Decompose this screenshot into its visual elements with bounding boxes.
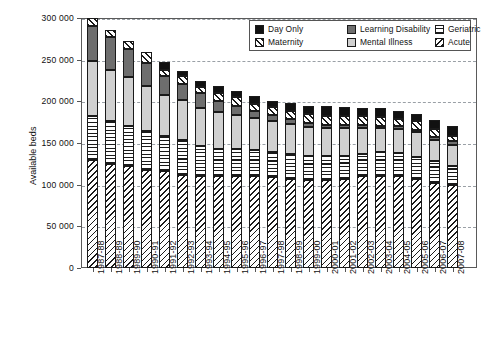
bar-segment-day-only <box>231 91 242 98</box>
bar-segment-geriatric <box>141 131 152 169</box>
bar-segment-geriatric <box>213 149 224 177</box>
bar-segment-maternity <box>285 111 296 119</box>
x-tick-label: 2001-02 <box>348 240 358 274</box>
solid-gray-swatch <box>347 25 356 34</box>
bar-segment-day-only <box>447 126 458 135</box>
bar-segment-day-only <box>267 101 278 108</box>
bar-segment-maternity <box>411 121 422 129</box>
bar-segment-maternity <box>429 129 440 137</box>
x-tick-mark <box>291 268 292 272</box>
x-tick-mark <box>111 268 112 272</box>
bar-segment-learning-disability <box>375 126 386 129</box>
bar-segment-geriatric <box>231 149 242 177</box>
legend-label: Learning Disability <box>360 24 430 34</box>
bar-segment-maternity <box>87 18 98 26</box>
bar-segment-mental-illness <box>339 128 350 156</box>
bar-segment-maternity <box>375 117 386 125</box>
bar-segment-day-only <box>411 114 422 122</box>
bar-segment-day-only <box>429 120 440 129</box>
y-tick-mark <box>77 268 81 269</box>
x-tick-mark <box>183 268 184 272</box>
x-tick-mark <box>273 268 274 272</box>
bar-segment-maternity <box>105 30 116 38</box>
bar-segment-mental-illness <box>123 77 134 125</box>
diagonal-hatch-back-swatch <box>435 38 444 47</box>
legend-item-learning-disability[interactable]: Learning Disability <box>347 24 435 34</box>
bar-segment-maternity <box>213 93 224 101</box>
y-tick-label: 300 000 <box>42 13 74 23</box>
bar-segment-learning-disability <box>447 141 458 145</box>
x-tick-label: 1994-95 <box>222 240 232 274</box>
bar-segment-mental-illness <box>267 121 278 152</box>
legend-item-day-only[interactable]: Day Only <box>255 24 347 34</box>
bar-segment-mental-illness <box>393 129 404 153</box>
bar-segment-geriatric <box>393 153 404 176</box>
bar-segment-learning-disability <box>321 125 332 128</box>
bar-segment-learning-disability <box>105 37 116 70</box>
bar-segment-mental-illness <box>285 124 296 154</box>
bar-segment-mental-illness <box>177 100 188 140</box>
bar-segment-geriatric <box>249 150 260 177</box>
x-tick-label: 1999-00 <box>312 240 322 274</box>
bar-segment-geriatric <box>411 157 422 179</box>
bar-segment-geriatric <box>87 116 98 159</box>
x-tick-mark <box>453 268 454 272</box>
chart-legend: Day OnlyLearning DisabilityGeriatricMate… <box>249 20 471 51</box>
x-tick-label: 1997-98 <box>276 240 286 274</box>
bar-segment-mental-illness <box>87 61 98 116</box>
legend-label: Acute <box>448 37 470 47</box>
y-tick-label: 0 <box>69 263 74 273</box>
x-tick-label: 2004-05 <box>402 240 412 274</box>
bar-segment-day-only <box>393 111 404 119</box>
bar-segment-mental-illness <box>321 128 332 156</box>
bar-segment-maternity <box>159 70 170 77</box>
legend-item-acute[interactable]: Acute <box>435 37 481 47</box>
y-tick-label: 250 000 <box>42 55 74 65</box>
x-tick-mark <box>435 268 436 272</box>
bar-segment-maternity <box>249 104 260 111</box>
x-tick-mark <box>417 268 418 272</box>
bar-segment-day-only <box>339 107 350 115</box>
x-tick-label: 2002-03 <box>366 240 376 274</box>
bar-segment-geriatric <box>123 126 134 167</box>
bar-segment-day-only <box>375 108 386 117</box>
bar-segment-geriatric <box>357 154 368 177</box>
bar-segment-maternity <box>267 107 278 115</box>
bar-segment-learning-disability <box>249 111 260 119</box>
y-tick-label: 50 000 <box>47 221 75 231</box>
bar-segment-day-only <box>249 96 260 104</box>
x-tick-label: 1995-96 <box>240 240 250 274</box>
legend-item-geriatric[interactable]: Geriatric <box>435 24 481 34</box>
bar-segment-learning-disability <box>231 106 242 115</box>
legend-item-maternity[interactable]: Maternity <box>255 37 347 47</box>
solid-lightgray-swatch <box>347 38 356 47</box>
x-tick-label: 1992-93 <box>186 240 196 274</box>
bar-segment-geriatric <box>321 156 332 180</box>
bar-segment-geriatric <box>267 152 278 177</box>
legend-item-mental-illness[interactable]: Mental Illness <box>347 37 435 47</box>
bar-segment-maternity <box>339 116 350 125</box>
bar-segment-maternity <box>447 136 458 141</box>
bar-segment-maternity <box>321 116 332 125</box>
x-tick-label: 1990-91 <box>150 240 160 274</box>
x-tick-mark <box>399 268 400 272</box>
bar-segment-geriatric <box>375 152 386 176</box>
bar-segment-learning-disability <box>213 101 224 112</box>
x-tick-label: 2003-04 <box>384 240 394 274</box>
bar-segment-learning-disability <box>87 26 98 61</box>
diagonal-hatch-fwd-swatch <box>255 38 264 47</box>
legend-label: Maternity <box>268 37 303 47</box>
bar-segment-maternity <box>195 87 206 93</box>
bar-segment-maternity <box>123 41 134 49</box>
bar-segment-geriatric <box>177 140 188 175</box>
bar-segment-day-only <box>213 86 224 93</box>
x-tick-label: 2007-08 <box>456 240 466 274</box>
bar-segment-maternity <box>303 114 314 123</box>
legend-label: Geriatric <box>448 24 481 34</box>
bar-segment-learning-disability <box>357 125 368 128</box>
x-tick-label: 1991-92 <box>168 240 178 274</box>
x-tick-mark <box>309 268 310 272</box>
bar-segment-mental-illness <box>357 128 368 154</box>
bar-segment-learning-disability <box>411 130 422 133</box>
bar-segment-learning-disability <box>267 115 278 122</box>
